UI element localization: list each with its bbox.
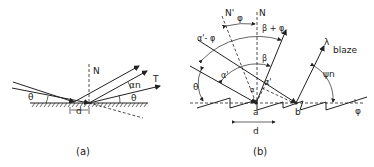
- spacing-label-b: d: [253, 126, 259, 136]
- diffracted-ray-b: [256, 30, 286, 103]
- normal-prime-label: N': [225, 8, 234, 18]
- incident-ray-b1: [198, 40, 296, 103]
- incident-ray-1: [13, 82, 74, 102]
- caption-a: (a): [76, 146, 90, 157]
- transmitted-ray: [89, 86, 160, 103]
- blazed-grating-profile: [197, 97, 367, 110]
- beta-plus-phi-label: β + φ: [262, 24, 284, 33]
- caption-b: (b): [253, 146, 267, 157]
- point-b: [295, 102, 298, 105]
- blaze-label: blaze: [333, 45, 357, 55]
- spacing-label: d: [76, 106, 82, 116]
- phi-arc-top: [226, 23, 255, 26]
- theta-right-label: θ: [131, 93, 137, 103]
- alpha-label: α': [221, 71, 228, 80]
- surface-hatching: [32, 103, 147, 107]
- phi-right-label: φ: [355, 106, 361, 116]
- point-b-label: b: [295, 107, 301, 117]
- transmitted-label: T: [152, 74, 159, 84]
- alpha-minus-phi-label: α'- φ: [197, 34, 215, 43]
- theta-label-b: θ: [193, 82, 199, 92]
- figure-a: N θ θ αn T d (a): [12, 64, 160, 157]
- psi-n-label: ψn: [323, 69, 335, 79]
- incident-ray-2: [12, 88, 89, 103]
- alpha-prime-label: α': [264, 78, 271, 87]
- normal-label: N: [93, 66, 100, 76]
- figure-b: N' N φ α'- φ β + φ α' β θ α α' a b: [190, 8, 367, 157]
- blaze-ray: [296, 46, 324, 103]
- theta-arc-right: [119, 95, 120, 103]
- lambda-symbol: λ: [324, 37, 330, 47]
- theta-arc-b: [198, 70, 203, 101]
- normal-label-b: N: [259, 8, 266, 18]
- theta-left-label: θ: [28, 92, 34, 102]
- alpha-small-label: α: [250, 86, 255, 94]
- theta-arc-left: [46, 96, 48, 103]
- phi-top-label: φ: [237, 13, 243, 23]
- point-a-label: a: [253, 107, 259, 117]
- point-a: [255, 102, 258, 105]
- path-difference-line-2: [262, 88, 294, 103]
- alpha-n-label: αn: [129, 80, 141, 90]
- beta-label: β: [262, 54, 267, 63]
- diffraction-grating-diagram: N θ θ αn T d (a) N' N φ: [0, 0, 374, 167]
